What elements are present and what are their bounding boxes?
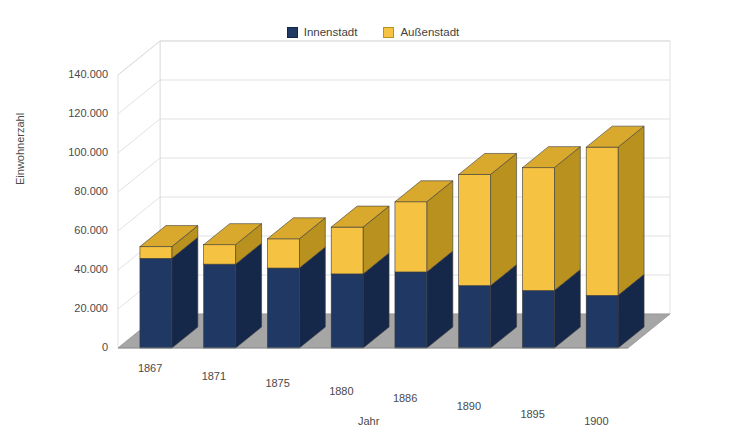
bar-1900-aussenstadt-side <box>618 126 644 295</box>
bar-group <box>459 153 517 348</box>
bar-1871-innenstadt-front <box>204 264 236 348</box>
x-tick-label: 1886 <box>393 392 417 404</box>
x-tick-label: 1880 <box>329 385 353 397</box>
bar-group <box>204 224 262 348</box>
bar-group <box>267 218 325 348</box>
bar-1867-aussenstadt-front <box>140 247 172 259</box>
x-tick-label: 1875 <box>265 377 289 389</box>
bar-group <box>522 147 580 348</box>
bar-1895-innenstadt-front <box>522 290 554 348</box>
bar-1895-aussenstadt-side <box>554 147 580 291</box>
bar-1886-innenstadt-front <box>395 272 427 348</box>
x-tick-label: 1890 <box>457 400 481 412</box>
x-tick-label: 1895 <box>520 408 544 420</box>
bar-1880-aussenstadt-front <box>331 227 363 274</box>
bar-1867-innenstadt-front <box>140 258 172 348</box>
bar-1875-aussenstadt-front <box>267 239 299 268</box>
bar-1886-aussenstadt-front <box>395 202 427 272</box>
bar-1875-innenstadt-front <box>267 268 299 348</box>
bar-group <box>586 126 644 348</box>
bar-1890-aussenstadt-side <box>491 153 517 285</box>
chart-container: Innenstadt Außenstadt Einwohnerzahl Jahr… <box>0 0 746 444</box>
bar-1900-aussenstadt-front <box>586 147 618 295</box>
x-tick-label: 1867 <box>138 362 162 374</box>
bar-1880-innenstadt-front <box>331 274 363 348</box>
bar-1895-aussenstadt-front <box>522 168 554 291</box>
bar-1900-innenstadt-front <box>586 295 618 348</box>
bar-group <box>331 206 389 348</box>
bar-1890-aussenstadt-front <box>459 174 491 285</box>
bar-group <box>140 226 198 348</box>
x-tick-label: 1871 <box>202 370 226 382</box>
bar-group <box>395 181 453 348</box>
bar-1871-aussenstadt-front <box>204 245 236 265</box>
chart-plot-area <box>0 0 746 444</box>
x-tick-label: 1900 <box>584 415 608 427</box>
bar-1890-innenstadt-front <box>459 286 491 348</box>
